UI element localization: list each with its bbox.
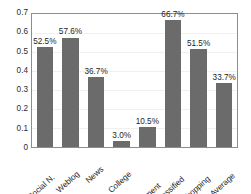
bar-chart: 0.70.60.50.40.30.20.10 52.5%57.6%36.7%3.… (0, 0, 251, 194)
x-axis-tick: Classified (160, 149, 186, 194)
bar[interactable] (216, 83, 232, 147)
bar-value-label: 3.0% (112, 132, 131, 140)
x-axis-tick: Average (212, 149, 238, 194)
y-axis-tick-label: 0.5 (6, 47, 28, 55)
x-axis-tick: Government (135, 149, 161, 194)
bar-value-label: 33.7% (213, 74, 236, 82)
bar-group: 33.7% (211, 14, 237, 147)
bar-value-label: 51.5% (187, 40, 210, 48)
bar-value-label: 52.5% (33, 38, 56, 46)
x-axis-tick-label-text: Weblog (54, 169, 81, 194)
bars-layer: 52.5%57.6%36.7%3.0%10.5%66.7%51.5%33.7% (32, 14, 237, 147)
x-axis-tick-label-text: News (84, 165, 105, 185)
x-axis: Social N.WeblogNewsCollegeGovernmentClas… (31, 149, 238, 194)
bar-value-label: 57.6% (59, 28, 82, 36)
x-axis-tick-label-text: Social N. (26, 173, 56, 194)
bar-value-label: 36.7% (84, 68, 107, 76)
x-axis-tick-label-text: Average (208, 171, 237, 194)
bar-group: 10.5% (135, 14, 161, 147)
y-axis-tick-label: 0.4 (6, 67, 28, 75)
x-axis-tick-label-text: College (106, 170, 133, 194)
bar[interactable] (165, 20, 181, 147)
bar[interactable] (113, 141, 129, 147)
bar[interactable] (139, 127, 155, 147)
x-axis-tick: College (109, 149, 135, 194)
bar-value-label: 10.5% (136, 118, 159, 126)
bar[interactable] (88, 77, 104, 147)
bar-value-label: 66.7% (161, 11, 184, 19)
x-axis-tick-label: Average (231, 151, 251, 178)
bar-group: 51.5% (186, 14, 212, 147)
x-axis-tick: Weblog (57, 149, 83, 194)
plot-area: 52.5%57.6%36.7%3.0%10.5%66.7%51.5%33.7% (31, 13, 238, 148)
bar[interactable] (37, 47, 53, 147)
y-axis-tick-label: 0.3 (6, 86, 28, 94)
y-axis-tick-label: 0.1 (6, 125, 28, 133)
bar-group: 52.5% (32, 14, 58, 147)
y-axis-tick-label: 0.7 (6, 9, 28, 17)
y-axis-tick-label: 0.2 (6, 105, 28, 113)
y-axis-tick-label: 0 (6, 144, 28, 152)
bar[interactable] (62, 38, 78, 147)
x-axis-tick: News (83, 149, 109, 194)
bar-group: 36.7% (83, 14, 109, 147)
bar[interactable] (190, 49, 206, 147)
y-axis: 0.70.60.50.40.30.20.10 (6, 13, 28, 148)
y-axis-tick-label: 0.6 (6, 28, 28, 36)
bar-group: 57.6% (58, 14, 84, 147)
x-axis-tick: Shopping (186, 149, 212, 194)
bar-group: 3.0% (109, 14, 135, 147)
x-axis-tick: Social N. (31, 149, 57, 194)
bar-group: 66.7% (160, 14, 186, 147)
